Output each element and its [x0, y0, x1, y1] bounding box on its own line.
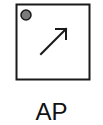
symbol-label: AP: [0, 99, 103, 125]
ap-symbol: [0, 0, 103, 95]
indicator-dot-icon: [21, 10, 31, 20]
